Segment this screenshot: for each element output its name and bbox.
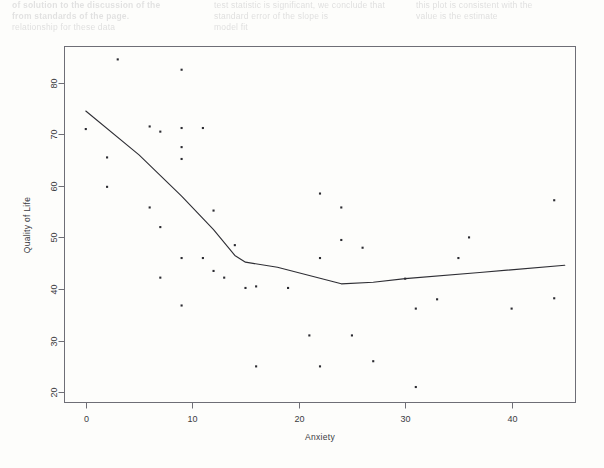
data-point [340,239,342,241]
y-tick-label: 80 [49,78,59,88]
data-point [181,158,183,160]
data-point [468,236,470,238]
data-point [202,257,204,259]
data-point [159,226,161,228]
data-point [362,247,364,249]
scatter-plot-figure: 20304050607080 010203040 Anxiety Quality… [0,0,604,468]
data-point [85,128,87,130]
data-point [106,186,108,188]
data-point [181,127,183,129]
data-point [553,199,555,201]
y-tick-label: 70 [49,129,59,139]
data-point [149,206,151,208]
data-point [415,308,417,310]
data-point [212,210,214,212]
data-point [351,334,353,336]
data-point [181,146,183,148]
data-point [117,58,119,60]
data-point [340,206,342,208]
data-point [223,277,225,279]
x-axis-title: Anxiety [305,432,335,442]
data-point [308,334,310,336]
data-point [234,244,236,246]
y-axis-tick-marks [59,84,65,393]
data-point [436,298,438,300]
data-point [244,287,246,289]
data-point [181,304,183,306]
data-point [319,192,321,194]
x-tick-label: 10 [187,414,197,424]
plot-frame-border [65,47,576,403]
data-point [415,386,417,388]
scanned-page: of solution to the discussion of the tes… [0,0,604,468]
y-tick-label: 60 [49,181,59,191]
data-point [202,127,204,129]
data-point [181,69,183,71]
data-point [159,277,161,279]
data-point [106,156,108,158]
data-point [181,257,183,259]
data-point [212,270,214,272]
data-point [149,125,151,127]
y-axis-tick-labels: 20304050607080 [49,78,59,397]
x-axis-tick-marks [87,403,513,409]
data-point [553,297,555,299]
data-point [319,257,321,259]
data-point [404,278,406,280]
data-point [319,365,321,367]
smoothed-fit-line [86,111,565,284]
x-tick-label: 40 [507,414,517,424]
x-tick-label: 20 [294,414,304,424]
data-point [159,131,161,133]
data-point [372,360,374,362]
x-axis-tick-labels: 010203040 [84,414,518,424]
data-point [287,287,289,289]
y-axis-title: Quality of Life [22,197,32,253]
x-tick-label: 0 [84,414,89,424]
y-tick-label: 40 [49,284,59,294]
scatter-points [85,58,556,388]
data-point [255,365,257,367]
data-point [511,308,513,310]
plot-canvas: 20304050607080 010203040 Anxiety Quality… [0,0,604,468]
y-tick-label: 20 [49,387,59,397]
y-tick-label: 30 [49,336,59,346]
data-point [255,285,257,287]
x-tick-label: 30 [400,414,410,424]
data-point [457,257,459,259]
y-tick-label: 50 [49,232,59,242]
